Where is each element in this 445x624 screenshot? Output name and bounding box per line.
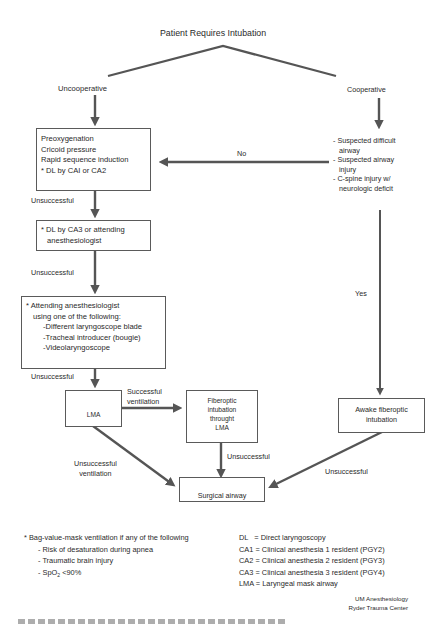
box-third-line: using one of the following: xyxy=(26,312,165,323)
source-credit: UM Anesthesiology Ryder Trauma Center xyxy=(349,595,409,612)
edge-label-no: No xyxy=(237,149,246,159)
branch-label-uncooperative: Uncooperative xyxy=(58,84,107,95)
box-third-line: -Videolaryngoscope xyxy=(26,343,165,354)
box-surgical-airway-label: Surgical airway xyxy=(198,491,247,500)
footnote-item-spo2: - SpO2 <90% xyxy=(24,567,189,582)
box-fiberoptic-through-lma: Fiberoptic intubation throught LMA xyxy=(186,390,258,443)
criteria-line: neurologic deficit xyxy=(333,184,396,194)
box-fiberoptic-line: intubation xyxy=(187,405,257,414)
box-awake-line: Awake fiberoptic xyxy=(339,405,424,415)
footnote-bvm: * Bag-value-mask ventilation if any of t… xyxy=(24,532,189,581)
box-initial-line: Cricoid pressure xyxy=(41,145,150,156)
footnote-heading: * Bag-value-mask ventilation if any of t… xyxy=(24,532,189,544)
box-fiberoptic-line: Fiberoptic xyxy=(187,396,257,405)
criteria-line: - Suspected difficult xyxy=(333,136,396,146)
flowchart-title: Patient Requires Intubation xyxy=(160,28,266,38)
legend-item: CA1 = Clinical anesthesia 1 resident (PG… xyxy=(239,544,385,556)
box-awake-line: intubation xyxy=(339,415,424,425)
footnote-spo2-threshold: <90% xyxy=(60,568,81,577)
legend-item: DL = Direct laryngoscopy xyxy=(239,532,385,544)
legend-item: CA3 = Clinical anesthesia 3 resident (PG… xyxy=(239,567,385,579)
criteria-line: - C-spine injury w/ xyxy=(333,174,396,184)
edge-label-line: ventilation xyxy=(127,397,162,407)
difficult-airway-criteria: - Suspected difficult airway - Suspected… xyxy=(333,136,396,193)
edge-label-line: Unsuccessful xyxy=(74,459,117,469)
figure-caption-cutoff xyxy=(18,619,288,624)
box-lma-label: LMA xyxy=(87,411,101,418)
edge-label-successful-ventilation: Successful ventilation xyxy=(127,387,162,406)
box-awake-fiberoptic-intubation: Awake fiberoptic intubation xyxy=(338,398,425,433)
criteria-line: airway xyxy=(333,146,396,156)
box-attending-alternatives: * Attending anesthesiologist using one o… xyxy=(21,296,166,369)
credit-line: Ryder Trauma Center xyxy=(349,604,409,613)
branch-label-cooperative: Cooperative xyxy=(347,85,386,95)
criteria-line: - Suspected airway xyxy=(333,155,396,165)
footnote-item: - Traumatic brain injury xyxy=(24,555,189,567)
box-fiberoptic-line: throught xyxy=(187,414,257,423)
footnote-item: - Risk of desaturation during apnea xyxy=(24,544,189,556)
box-initial-management: Preoxygenation Cricoid pressure Rapid se… xyxy=(36,128,151,191)
edge-label-yes: Yes xyxy=(355,289,367,299)
edge-label-unsuccessful: Unsuccessful xyxy=(31,268,74,278)
legend-item: CA2 = Clinical anesthesia 2 resident (PG… xyxy=(239,555,385,567)
edge-label-unsuccessful-fiberoptic: Unsuccessful xyxy=(227,452,270,462)
criteria-line: injury xyxy=(333,165,396,175)
edge-label-unsuccessful: Unsuccessful xyxy=(31,372,74,382)
box-fiberoptic-line: LMA xyxy=(187,423,257,432)
box-initial-line: Preoxygenation xyxy=(41,134,150,145)
branch-chevron xyxy=(108,46,336,76)
box-surgical-airway: Surgical airway xyxy=(179,477,265,502)
edge-label-unsuccessful: Unsuccessful xyxy=(31,196,74,206)
edge-label-unsuccessful-ventilation: Unsuccessful ventilation xyxy=(74,459,117,478)
box-third-line: * Attending anesthesiologist xyxy=(26,301,165,312)
edge-label-line: Successful xyxy=(127,387,162,397)
box-second-line: * DL by CA3 or attending xyxy=(41,225,150,236)
box-lma: LMA xyxy=(65,390,122,427)
box-initial-line: * DL by CAI or CA2 xyxy=(41,166,150,177)
box-third-line: -Tracheal introducer (bougie) xyxy=(26,333,165,344)
edge-label-line: ventilation xyxy=(74,469,117,479)
edge-label-unsuccessful-awake: Unsuccessful xyxy=(325,467,368,477)
credit-line: UM Anesthesiology xyxy=(349,595,409,604)
footnote-spo2-text: - SpO xyxy=(38,568,57,577)
abbreviation-legend: DL = Direct laryngoscopy CA1 = Clinical … xyxy=(239,532,385,590)
legend-item: LMA = Laryngeal mask airway xyxy=(239,578,385,590)
box-third-line: -Different laryngoscope blade xyxy=(26,322,165,333)
box-initial-line: Rapid sequence induction xyxy=(41,155,150,166)
box-second-line: anesthesiologist xyxy=(41,236,150,247)
box-dl-ca3-attending: * DL by CA3 or attending anesthesiologis… xyxy=(36,220,151,251)
